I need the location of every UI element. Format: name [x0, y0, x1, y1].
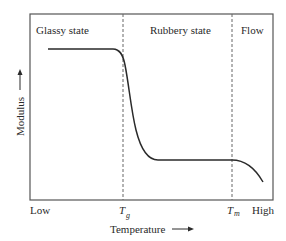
modulus-curve — [48, 49, 263, 182]
x-tick-tg: T g — [119, 204, 130, 220]
y-axis-arrow-icon — [18, 69, 23, 90]
region-label-glassy: Glassy state — [36, 24, 89, 36]
y-axis-label-group: Modulus — [14, 69, 26, 136]
y-axis-label: Modulus — [14, 97, 26, 136]
svg-text:T: T — [227, 204, 234, 216]
x-axis-arrow-icon — [172, 227, 194, 232]
svg-text:g: g — [126, 211, 130, 220]
x-tick-low: Low — [30, 204, 50, 216]
x-tick-high: High — [252, 204, 275, 216]
svg-text:m: m — [234, 209, 240, 218]
modulus-temperature-chart: Glassy state Rubbery state Flow Low High… — [0, 0, 286, 241]
plot-frame — [30, 14, 273, 200]
region-label-rubbery: Rubbery state — [150, 24, 211, 36]
x-tick-tm: T m — [227, 204, 240, 218]
region-label-flow: Flow — [241, 24, 264, 36]
svg-text:T: T — [119, 204, 126, 216]
x-axis-label: Temperature — [110, 223, 166, 235]
